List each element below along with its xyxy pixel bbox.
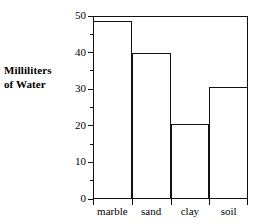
- bar-marble: [93, 21, 132, 199]
- x-tick-mark: [209, 199, 210, 205]
- bar-chart-figure: Milliliters of Water 01020304050 marbles…: [0, 0, 254, 224]
- y-tick-label: 30: [60, 83, 86, 94]
- x-tick-label-soil: soil: [209, 205, 248, 217]
- x-tick-mark: [93, 199, 94, 205]
- x-tick-label-sand: sand: [132, 205, 171, 217]
- y-tick-label: 50: [60, 10, 86, 21]
- y-tick-label: 20: [60, 120, 86, 131]
- y-axis-title-line-1: Milliliters: [4, 63, 78, 77]
- x-tick-mark: [132, 199, 133, 205]
- x-tick-label-marble: marble: [93, 205, 132, 217]
- y-tick-label: 0: [60, 193, 86, 204]
- x-tick-mark: [247, 199, 248, 205]
- y-tick-mark: [88, 16, 94, 17]
- bar-soil: [209, 87, 248, 199]
- bar-sand: [132, 53, 171, 199]
- x-tick-mark: [171, 199, 172, 205]
- x-tick-label-clay: clay: [171, 205, 210, 217]
- y-tick-label: 10: [60, 156, 86, 167]
- bar-clay: [171, 124, 210, 199]
- y-tick-label: 40: [60, 47, 86, 58]
